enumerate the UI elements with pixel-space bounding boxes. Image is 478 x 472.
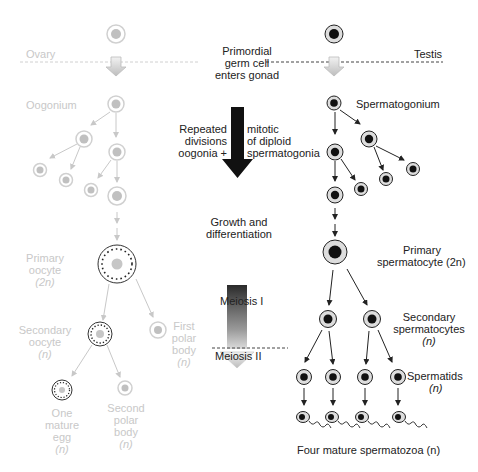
spermatid-cell [391, 370, 406, 385]
ovary-label: Ovary [26, 48, 55, 60]
oogonium-cell [34, 164, 47, 177]
female-primordial-germ-cell [107, 25, 125, 43]
primary-oocyte-cell [98, 245, 136, 283]
male-entry-arrow [324, 57, 344, 76]
second-polar-body-cell [118, 381, 132, 395]
secondary-spermatocyte-cell [320, 311, 337, 328]
spermatogonium-cell [361, 131, 377, 147]
spermatid-cell [326, 370, 341, 385]
testis-label: Testis [414, 48, 442, 60]
secondary-spermatocyte-cell [364, 311, 381, 328]
first-polar-body-cell [150, 322, 166, 338]
meiosis-2-label: Meiosis II [215, 350, 261, 362]
spermatogonium-cell [327, 187, 343, 203]
spermatogonium-cell [327, 96, 341, 110]
oogonium-cell [108, 96, 124, 112]
oogonium-cell [85, 184, 98, 197]
oogonium-cell [60, 174, 73, 187]
primordial-label: Primordial germ cell enters gonad [204, 45, 290, 81]
mature-egg-label: One mature egg (n) [44, 407, 80, 455]
male-primordial-germ-cell [325, 25, 343, 43]
mitosis-label-left: Repeated divisions oogonia + [168, 123, 227, 159]
spermatogonium-label: Spermatogonium [356, 98, 440, 110]
spermatid-cell [358, 370, 373, 385]
spermatogonium-cell [327, 144, 343, 160]
oogonium-label: Oogonium [26, 99, 77, 111]
oogonium-daughter-cell [109, 144, 125, 160]
spermatozoa-label: Four mature spermatozoa (n) [297, 444, 440, 456]
primary-oocyte-label: Primary oocyte (2n) [24, 252, 66, 288]
first-polar-body-label: First polar body (n) [171, 320, 197, 368]
meiosis-1-label: Meiosis I [220, 295, 263, 307]
oogonium-daughter-cell [76, 131, 92, 147]
secondary-oocyte-cell [88, 322, 112, 346]
spermatids-label: Spermatids (n) [407, 370, 463, 394]
spermatogonium-cell [380, 173, 393, 186]
spermatogonium-cell [355, 183, 368, 196]
mature-egg-cell [52, 380, 72, 400]
spermatogonium-cell [407, 163, 420, 176]
growth-label: Growth and differentiation [197, 216, 281, 240]
primary-spermatocyte-label: Primary spermatocyte (2n) [377, 244, 466, 268]
secondary-oocyte-label: Secondary oocyte (n) [16, 324, 74, 360]
spermatid-cell [297, 370, 312, 385]
female-entry-arrow [106, 57, 126, 76]
secondary-spermatocytes-label: Secondary spermatocytes (n) [387, 311, 471, 347]
mitosis-label-right: mitotic of diploid spermatogonia [247, 123, 320, 159]
oogonium-cell [108, 187, 126, 205]
second-polar-body-label: Second polar body (n) [103, 402, 149, 450]
spermatozoon [356, 412, 391, 429]
primary-spermatocyte-cell [323, 240, 347, 264]
spermatozoon [326, 412, 361, 429]
spermatozoon [393, 412, 428, 429]
